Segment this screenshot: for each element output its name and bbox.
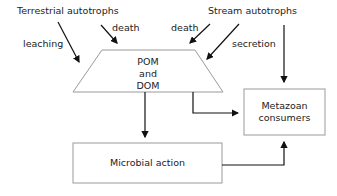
metazoan-consumers-label: Metazoan consumers [244,100,325,124]
microbial-to-metazoan-arrow [222,142,284,165]
secretion-label: secretion [232,39,276,49]
pom-dom-label: POM and DOM [120,56,176,92]
terrestrial-death-label: death [112,23,139,33]
pool-to-metazoan-arrow [193,92,238,113]
stream-autotrophs-label: Stream autotrophs [208,6,297,16]
terrestrial-autotrophs-label: Terrestrial autotrophs [17,6,119,16]
leaching-label: leaching [23,39,63,49]
stream-death-label: death [171,23,198,33]
microbial-action-label: Microbial action [73,158,222,168]
